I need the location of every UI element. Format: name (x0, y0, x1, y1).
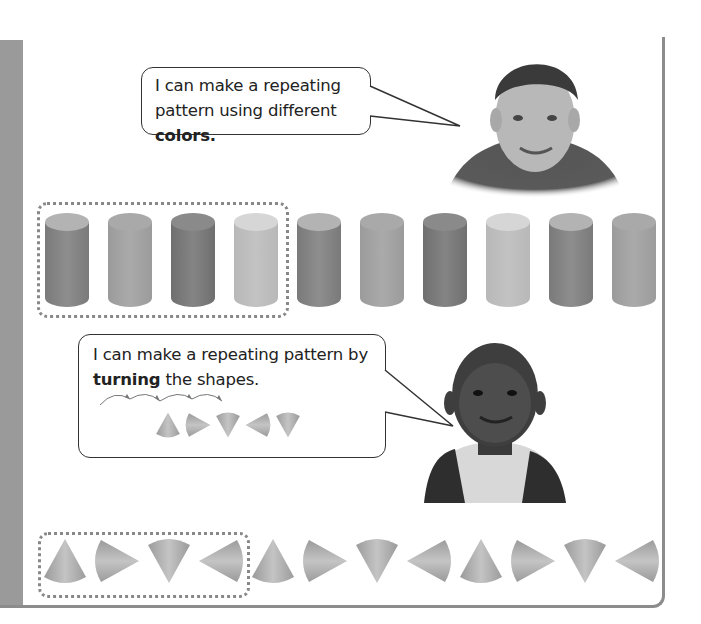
bubble-2-bold-word: turning (93, 370, 160, 389)
boy-photo-bottom (420, 325, 570, 505)
speech-bubble-colors: I can make a repeating pattern using dif… (141, 67, 371, 135)
frame-top-gap (655, 0, 667, 37)
boy-photo-top (440, 40, 630, 200)
mini-cone-down (275, 411, 301, 439)
cone-pattern-row (42, 537, 660, 585)
mini-cone-down (215, 411, 241, 439)
bubble-1-line-2-text: pattern using different (155, 101, 336, 120)
cone-right (94, 537, 140, 585)
cone-left (406, 537, 452, 585)
cylinder (486, 212, 530, 308)
cylinder (360, 212, 404, 308)
cone-up (250, 537, 296, 585)
cone-right (510, 537, 556, 585)
cylinder-pattern-row (45, 212, 656, 308)
bubble-2-line-2-text: the shapes. (160, 370, 259, 389)
mini-cone-right (185, 411, 211, 439)
mini-cone-up (155, 411, 181, 439)
cone-left (198, 537, 244, 585)
cone-up (458, 537, 504, 585)
cone-left (614, 537, 660, 585)
cylinder (549, 212, 593, 308)
cone-down (354, 537, 400, 585)
bubble-2-line-1: I can make a repeating pattern by (93, 342, 385, 367)
cylinder (108, 212, 152, 308)
cylinder (423, 212, 467, 308)
bubble-1-line-2: pattern using different colors. (155, 98, 370, 148)
cylinder (171, 212, 215, 308)
turn-arrows (98, 389, 298, 409)
cylinder (45, 212, 89, 308)
bubble-1-line-1: I can make a repeating (155, 73, 370, 98)
cone-down (146, 537, 192, 585)
cylinder (297, 212, 341, 308)
cone-right (302, 537, 348, 585)
mini-cone-turning-example (155, 411, 385, 439)
mini-cone-left (245, 411, 271, 439)
cone-up (42, 537, 88, 585)
cylinder (234, 212, 278, 308)
cone-down (562, 537, 608, 585)
cylinder (612, 212, 656, 308)
bubble-1-bold-word: colors. (155, 126, 216, 145)
